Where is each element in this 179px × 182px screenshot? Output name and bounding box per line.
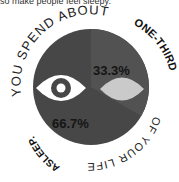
awake-percent-label: 66.7% [52,116,89,131]
asleep-percent-label: 33.3% [93,63,130,78]
sleep-pie-chart: 33.3% 66.7% YOU SPEND ABOUT ONE-THIRD OF… [0,0,179,182]
curved-text-end: ASLEEP. [25,135,61,175]
